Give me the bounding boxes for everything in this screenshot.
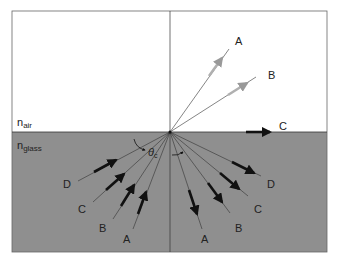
reflected-label-c: C bbox=[254, 203, 262, 215]
glass-region bbox=[12, 132, 327, 252]
incident-label-d: D bbox=[63, 178, 71, 190]
refraction-diagram: nair nglass θc A B C D C B A A B C D bbox=[0, 0, 337, 266]
reflected-label-b: B bbox=[235, 222, 242, 234]
incident-label-b: B bbox=[99, 222, 106, 234]
reflected-label-a: A bbox=[201, 233, 209, 245]
incident-label-a: A bbox=[123, 233, 131, 245]
incident-label-c: C bbox=[78, 203, 86, 215]
refracted-label-a: A bbox=[235, 35, 243, 47]
refracted-label-b: B bbox=[268, 69, 275, 81]
reflected-label-d: D bbox=[267, 178, 275, 190]
air-region bbox=[12, 11, 327, 132]
refracted-label-c: C bbox=[279, 120, 287, 132]
ray-origin-point bbox=[169, 131, 172, 134]
